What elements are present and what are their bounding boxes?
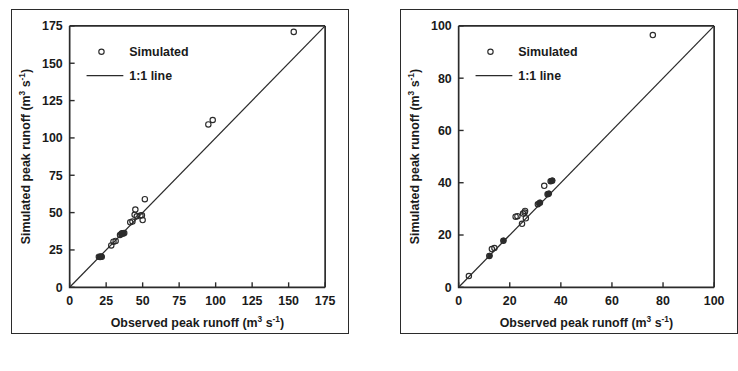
caption-strip [0,345,710,371]
y-tick-label: 100 [42,131,63,145]
y-tick-label: 0 [445,281,452,295]
y-tick-label: 40 [438,176,452,190]
legend-marker-simulated [488,49,493,54]
data-point-open [542,183,547,188]
tick-labels-right: 020406080100020406080100 [431,19,725,308]
scatter-plot-right: 020406080100020406080100 Simulated1:1 li… [401,10,737,333]
one-to-one-line-left [70,26,325,287]
data-point-open [291,29,296,34]
x-tick-label: 100 [205,294,226,308]
x-tick-label: 100 [704,294,725,308]
y-tick-label: 60 [438,124,452,138]
legend-marker-simulated [99,49,104,54]
data-point-filled [121,231,126,236]
data-point-filled [98,254,103,259]
data-point-open [133,207,138,212]
legend-label-simulated: Simulated [518,45,577,59]
x-tick-label: 25 [99,294,113,308]
legend-left: Simulated1:1 line [87,45,189,83]
x-tick-label: 150 [278,294,299,308]
x-tick-label: 50 [136,294,150,308]
reference-line-1-to-1 [70,26,325,287]
x-tick-label: 60 [605,294,619,308]
legend-label-1-to-1-line: 1:1 line [518,69,561,83]
x-tick-label: 80 [656,294,670,308]
x-tick-label: 0 [66,294,73,308]
y-tick-label: 175 [42,19,63,33]
data-point-filled [550,178,555,183]
x-tick-label: 20 [503,294,517,308]
legend-label-simulated: Simulated [129,45,188,59]
data-point-filled [487,253,492,258]
y-tick-label: 25 [49,243,63,257]
data-point-filled [501,238,506,243]
chart-panel-right: 020406080100020406080100 Simulated1:1 li… [400,9,738,334]
y-tick-label: 75 [49,169,63,183]
data-point-open [206,122,211,127]
x-tick-label: 40 [554,294,568,308]
y-tick-label: 150 [42,57,63,71]
y-tick-label: 20 [438,228,452,242]
tick-labels-left: 02550751001251501750255075100125150175 [42,19,336,308]
data-point-filled [547,191,552,196]
x-axis-title: Observed peak runoff (m3 s-1) [111,314,284,330]
y-tick-label: 100 [431,19,452,33]
y-tick-label: 125 [42,94,63,108]
data-point-open [650,32,655,37]
chart-panel-left: 02550751001251501750255075100125150175 S… [11,9,349,334]
data-points-left [96,29,296,259]
y-axis-title: Simulated peak runoff (m3 s-1) [406,69,422,244]
y-axis-title: Simulated peak runoff (m3 s-1) [17,69,33,244]
x-axis-title: Observed peak runoff (m3 s-1) [500,314,673,330]
x-tick-label: 175 [315,294,336,308]
x-tick-label: 0 [455,294,462,308]
y-tick-label: 0 [56,281,63,295]
legend-right: Simulated1:1 line [476,45,578,83]
y-tick-label: 80 [438,72,452,86]
x-tick-label: 75 [172,294,186,308]
data-point-open [142,196,147,201]
x-tick-label: 125 [242,294,263,308]
scatter-plot-left: 02550751001251501750255075100125150175 S… [12,10,348,333]
legend-label-1-to-1-line: 1:1 line [129,69,172,83]
data-point-open [210,117,215,122]
data-point-filled [538,200,543,205]
y-tick-label: 50 [49,206,63,220]
